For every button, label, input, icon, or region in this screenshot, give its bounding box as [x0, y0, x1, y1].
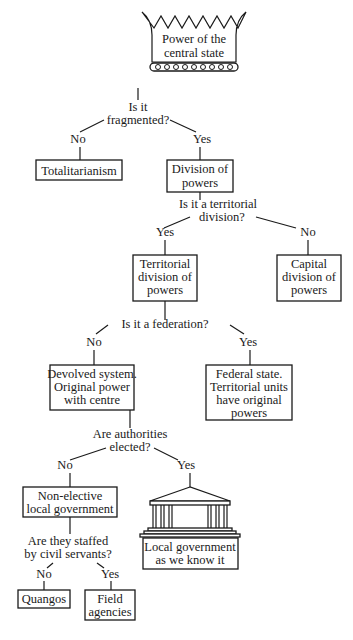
node-federal-label-1: Federal state. — [216, 367, 283, 381]
ans-no-4: No — [57, 458, 72, 472]
q-fragmented-1: Is it — [128, 100, 148, 114]
ans-yes-4: Yes — [177, 458, 195, 472]
q-elected-2: elected? — [110, 440, 151, 454]
node-capital-label-3: powers — [291, 283, 327, 297]
ans-no-1: No — [70, 132, 85, 146]
ans-no-5: No — [36, 567, 51, 581]
q-civil-1: Are they staffed — [28, 534, 109, 548]
q-federation: Is it a federation? — [121, 317, 209, 331]
ans-yes-3: Yes — [239, 335, 257, 349]
node-capital-label-1: Capital — [291, 257, 328, 271]
town-hall-icon — [140, 487, 240, 537]
ans-no-2: No — [300, 225, 315, 239]
ans-yes-1: Yes — [193, 132, 211, 146]
ans-no-3: No — [86, 335, 101, 349]
q-elected-1: Are authorities — [93, 427, 168, 441]
node-federal-label-2: Territorial units — [210, 380, 288, 394]
node-territorial-label-2: division of — [138, 270, 193, 284]
node-non-elective-label-1: Non-elective — [38, 489, 103, 503]
ans-yes-2: Yes — [156, 225, 174, 239]
node-quangos-label: Quangos — [22, 592, 67, 606]
q-territorial-2: division? — [199, 210, 245, 224]
q-territorial-1: Is it a territorial — [179, 197, 258, 211]
title-line-1: Power of the — [162, 32, 226, 46]
node-territorial-label-3: powers — [147, 283, 183, 297]
node-field-label-2: agencies — [88, 605, 131, 619]
flowchart: Power of the central state Is it fragmen… — [0, 0, 353, 640]
node-devolved-label-1: Devolved system. — [47, 367, 137, 381]
node-territorial-label-1: Territorial — [140, 257, 191, 271]
node-federal-label-3: have original — [216, 393, 282, 407]
node-local-gov-label-2: as we know it — [155, 553, 225, 567]
node-local-gov-label-1: Local government — [144, 540, 236, 554]
node-non-elective-label-2: local government — [26, 502, 114, 516]
title-line-2: central state — [164, 46, 224, 60]
node-devolved-label-3: with centre — [64, 393, 120, 407]
node-capital-label-2: division of — [282, 270, 337, 284]
ans-yes-5: Yes — [101, 567, 119, 581]
node-field-label-1: Field — [97, 592, 123, 606]
node-devolved-label-2: Original power — [54, 380, 131, 394]
node-totalitarianism-label: Totalitarianism — [41, 164, 117, 178]
node-division-label-2: powers — [182, 176, 218, 190]
node-division-label-1: Division of — [172, 162, 229, 176]
q-civil-2: by civil servants? — [24, 547, 112, 561]
q-fragmented-2: fragmented? — [107, 113, 170, 127]
node-federal-label-4: powers — [231, 406, 267, 420]
